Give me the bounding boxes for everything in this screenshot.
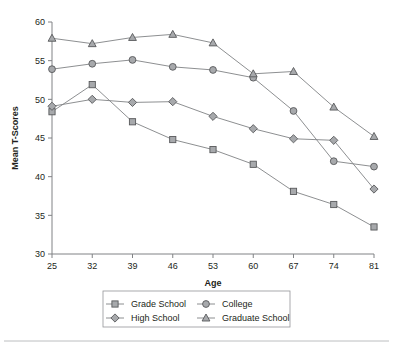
legend-marker-square — [112, 301, 118, 307]
x-tick-label-25: 25 — [47, 261, 57, 271]
marker-circle — [290, 108, 297, 115]
data-point-college-53 — [210, 67, 217, 74]
marker-triangle — [290, 67, 298, 74]
data-point-graduate-school-81 — [370, 132, 378, 139]
marker-square — [371, 224, 377, 230]
data-point-grade-school-81 — [371, 224, 377, 230]
data-point-high-school-46 — [169, 98, 177, 106]
marker-square — [290, 188, 296, 194]
marker-circle — [330, 158, 337, 165]
data-point-college-25 — [49, 66, 56, 73]
y-tick-label-55: 55 — [35, 56, 45, 66]
x-tick-label-74: 74 — [329, 261, 339, 271]
y-tick-label-30: 30 — [35, 249, 45, 259]
y-tick-label-45: 45 — [35, 133, 45, 143]
line-chart: 30354045505560253239465360677481AgeMean … — [0, 0, 393, 348]
data-point-grade-school-67 — [290, 188, 296, 194]
marker-triangle — [48, 34, 56, 41]
marker-diamond — [209, 112, 217, 120]
legend-marker-circle — [203, 301, 210, 308]
x-tick-label-53: 53 — [208, 261, 218, 271]
x-tick-label-81: 81 — [369, 261, 379, 271]
x-tick-label-60: 60 — [248, 261, 258, 271]
series-line-grade-school — [52, 85, 374, 227]
data-point-college-32 — [89, 60, 96, 67]
series-line-graduate-school — [52, 34, 374, 136]
marker-diamond — [249, 125, 257, 133]
marker-square — [331, 201, 337, 207]
y-tick-label-35: 35 — [35, 211, 45, 221]
marker-circle — [371, 163, 378, 170]
data-point-grade-school-60 — [250, 161, 256, 167]
marker-circle — [203, 301, 210, 308]
marker-square — [210, 147, 216, 153]
chart-figure: 30354045505560253239465360677481AgeMean … — [0, 0, 393, 348]
x-tick-label-67: 67 — [288, 261, 298, 271]
marker-circle — [89, 60, 96, 67]
y-axis-title: Mean T-Scores — [10, 106, 20, 170]
data-point-high-school-39 — [128, 98, 136, 106]
data-point-grade-school-32 — [89, 82, 95, 88]
marker-circle — [169, 63, 176, 70]
data-point-college-39 — [129, 56, 136, 63]
data-point-grade-school-53 — [210, 147, 216, 153]
data-point-college-74 — [330, 158, 337, 165]
legend-label: College — [222, 299, 253, 309]
marker-square — [112, 301, 118, 307]
data-point-graduate-school-67 — [290, 67, 298, 74]
data-point-high-school-60 — [249, 125, 257, 133]
legend-label: Graduate School — [222, 313, 290, 323]
y-tick-label-40: 40 — [35, 172, 45, 182]
y-tick-label-60: 60 — [35, 17, 45, 27]
marker-square — [170, 136, 176, 142]
y-tick-label-50: 50 — [35, 95, 45, 105]
marker-triangle — [169, 30, 177, 37]
marker-square — [89, 82, 95, 88]
data-point-college-46 — [169, 63, 176, 70]
data-point-grade-school-39 — [129, 119, 135, 125]
marker-diamond — [169, 98, 177, 106]
x-axis-title: Age — [204, 278, 221, 288]
marker-diamond — [289, 135, 297, 143]
data-point-college-81 — [371, 163, 378, 170]
data-point-grade-school-74 — [331, 201, 337, 207]
x-tick-label-32: 32 — [87, 261, 97, 271]
marker-square — [129, 119, 135, 125]
legend-label: High School — [131, 313, 180, 323]
marker-triangle — [370, 132, 378, 139]
data-point-grade-school-46 — [170, 136, 176, 142]
legend-label: Grade School — [131, 299, 186, 309]
marker-circle — [49, 66, 56, 73]
data-point-high-school-53 — [209, 112, 217, 120]
data-point-high-school-67 — [289, 135, 297, 143]
data-point-graduate-school-25 — [48, 34, 56, 41]
marker-circle — [129, 56, 136, 63]
marker-square — [250, 161, 256, 167]
marker-diamond — [88, 95, 96, 103]
marker-circle — [210, 67, 217, 74]
marker-diamond — [128, 98, 136, 106]
x-tick-label-46: 46 — [168, 261, 178, 271]
data-point-college-67 — [290, 108, 297, 115]
x-tick-label-39: 39 — [127, 261, 137, 271]
data-point-graduate-school-46 — [169, 30, 177, 37]
data-point-high-school-32 — [88, 95, 96, 103]
